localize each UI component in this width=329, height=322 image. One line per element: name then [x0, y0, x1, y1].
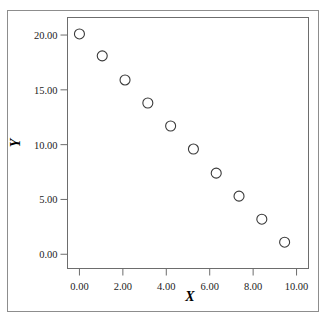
x-axis-title: X — [185, 289, 194, 305]
data-point — [211, 168, 221, 178]
x-axis-tick-label: 4.00 — [157, 281, 175, 292]
data-point — [188, 144, 198, 154]
data-point — [234, 191, 244, 201]
data-point — [120, 75, 130, 85]
y-axis-tick-label: 15.00 — [10, 84, 58, 95]
data-point — [166, 121, 176, 131]
x-axis-tick-label: 0.00 — [70, 281, 88, 292]
data-point — [257, 214, 267, 224]
y-axis-tick-label: 5.00 — [10, 194, 58, 205]
x-axis-tick-label: 2.00 — [114, 281, 132, 292]
y-axis-tick-label: 20.00 — [10, 30, 58, 41]
y-axis-tick-label: 10.00 — [10, 139, 58, 150]
y-axis-tick-label: 0.00 — [10, 249, 58, 260]
x-axis-tick-label: 10.00 — [285, 281, 309, 292]
data-point — [74, 29, 84, 39]
data-point — [97, 51, 107, 61]
x-axis-tick-label: 8.00 — [244, 281, 262, 292]
plot-canvas — [0, 0, 329, 322]
x-axis-tick-label: 6.00 — [201, 281, 219, 292]
scatter-plot: Y X 0.005.0010.0015.0020.000.002.004.006… — [0, 0, 329, 322]
data-point — [280, 237, 290, 247]
data-point — [143, 98, 153, 108]
plot-frame — [68, 18, 309, 269]
